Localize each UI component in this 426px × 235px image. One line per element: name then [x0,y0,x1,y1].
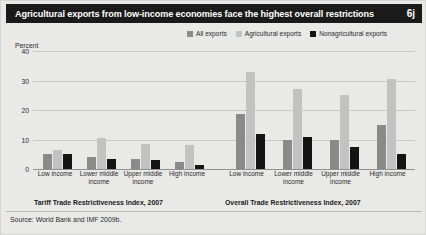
x-axis-category-label: Low income [223,170,270,178]
legend-item-nonagri: Nonagricultural exports [310,30,387,37]
page-title: Agricultural exports from low-income eco… [15,9,374,19]
figure-number-badge: 6j [407,8,415,19]
bar-all [236,114,245,169]
bar-all [377,125,386,169]
bar-cluster [123,51,167,169]
legend-label: Agricultural exports [245,30,301,37]
bar-agri [246,72,255,169]
bar-cluster [368,51,415,169]
bar-nonagri [195,165,204,169]
x-axis-category-label: High income [165,170,209,178]
chart-legend: All exportsAgricultural exportsNonagricu… [187,30,387,37]
bar-nonagri [397,154,406,169]
panel-tariff-bars [33,51,213,169]
x-axis-category-label: Upper middle income [121,170,165,185]
bar-all [43,154,52,169]
legend-label: All exports [196,30,227,37]
legend-swatch-icon-nonagri [310,31,316,37]
bar-cluster [227,51,274,169]
bar-agri [141,144,150,169]
x-axis-category-label: Lower middle income [77,170,121,185]
x-axis-labels-left: Low incomeLower middle incomeUpper middl… [33,170,213,196]
bar-cluster [167,51,211,169]
y-axis-tick-label: 30 [15,77,29,84]
legend-swatch-icon-all [187,31,193,37]
legend-item-all: All exports [187,30,227,37]
bar-group [167,51,211,169]
x-axis-category-label: Low income [33,170,77,178]
bar-all [330,140,339,170]
bar-cluster [79,51,123,169]
source-note: Source: World Bank and IMF 2009b. [10,216,121,223]
x-axis-category-label: Upper middle income [317,170,364,185]
y-axis-tick-label: 40 [15,48,29,55]
legend-swatch-icon-agri [236,31,242,37]
bar-agri [97,138,106,169]
legend-label: Nonagricultural exports [319,30,387,37]
bar-group [274,51,321,169]
bar-group [321,51,368,169]
bar-nonagri [151,160,160,169]
plot-area: 403020100 [15,51,415,169]
bar-nonagri [63,154,72,169]
panel-overall-bars [223,51,415,169]
bar-agri [293,89,302,169]
bar-group [79,51,123,169]
bar-all [87,157,96,169]
bar-agri [387,79,396,169]
y-axis-tick-label: 20 [15,107,29,114]
bar-cluster [321,51,368,169]
y-axis-tick-label: 0 [15,166,29,173]
y-axis-tick-label: 10 [15,136,29,143]
bar-group [35,51,79,169]
bar-agri [53,150,62,169]
bar-agri [340,95,349,169]
panel-caption-left: Tariff Trade Restrictiveness Index, 2007 [34,199,163,206]
bar-nonagri [350,147,359,169]
x-axis-category-label: Lower middle income [270,170,317,185]
source-divider [6,211,422,212]
bar-nonagri [107,159,116,169]
bar-group [227,51,274,169]
x-axis-category-label: High income [364,170,411,178]
bar-nonagri [256,134,265,169]
figure-title-bar: Agricultural exports from low-income eco… [6,4,422,23]
bar-cluster [274,51,321,169]
bar-all [131,159,140,169]
bar-group [368,51,415,169]
bar-all [283,140,292,170]
figure-panel: Agricultural exports from low-income eco… [0,0,426,235]
bar-nonagri [303,137,312,169]
bar-all [175,162,184,169]
bar-group [123,51,167,169]
x-axis-labels-right: Low incomeLower middle incomeUpper middl… [223,170,415,196]
legend-item-agri: Agricultural exports [236,30,301,37]
bar-agri [185,145,194,169]
bar-cluster [35,51,79,169]
panel-caption-right: Overall Trade Restrictiveness Index, 200… [225,199,361,206]
